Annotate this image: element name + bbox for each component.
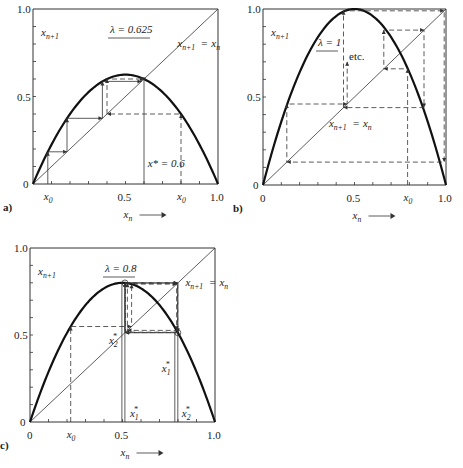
x-axis-arrow-icon xyxy=(159,450,164,456)
x-axis-label: xn xyxy=(120,446,130,461)
x2-star-label-mid: x2* xyxy=(108,332,118,349)
x-tick-label-05: 0.5 xyxy=(118,191,132,203)
diagonal-label-rhs-b: xn xyxy=(362,117,372,132)
x-tick-label-0: 0 xyxy=(27,429,33,441)
x-tick-label-1: 1.0 xyxy=(438,192,452,204)
y-axis-label: xn+1 xyxy=(40,26,59,41)
x0-label-c-0: x0 xyxy=(66,428,76,443)
diagonal-label-c: xn+1 xyxy=(184,276,203,291)
x-axis-label: xn xyxy=(123,208,133,223)
lambda-title: λ = 0.8 xyxy=(104,262,137,274)
x1-star-label-axis: x1* xyxy=(129,405,139,422)
y-tick-label-05: 0.5 xyxy=(14,329,28,341)
y-tick-label-05: 0.5 xyxy=(247,91,261,103)
logistic-curve xyxy=(30,283,215,422)
x-axis-arrow-icon xyxy=(391,213,396,219)
y-axis-label: xn+1 xyxy=(270,26,289,41)
plot-a: 1.00.500.51.0xn+1xna)λ = 0.625xn+1= xnx*… xyxy=(3,3,224,223)
x-tick-label-05: 0.5 xyxy=(115,429,129,441)
x2-star-label-axis: x2* xyxy=(181,405,191,422)
diagonal-line xyxy=(33,9,218,184)
y-tick-label-0: 0 xyxy=(23,178,29,190)
figure-logistic-map-cobwebs: 1.00.500.51.0xn+1xna)λ = 0.625xn+1= xnx*… xyxy=(0,0,463,468)
x-axis-arrow-icon xyxy=(162,212,167,218)
x-tick-label-1: 1.0 xyxy=(210,191,224,203)
y-tick-label-1: 1.0 xyxy=(14,242,28,254)
diagonal-label-eq: = xyxy=(201,37,207,49)
lambda-title: λ = 1 xyxy=(317,36,341,48)
plot-b: 1.00.5000.51.0xn+1xnb)λ = 1etc.xn+1= xnx… xyxy=(233,3,452,224)
x-tick-label-0: 0 xyxy=(260,192,266,204)
x-tick-label-1: 1.0 xyxy=(207,429,221,441)
x1-star-label-mid: x1* xyxy=(161,360,171,377)
diagonal-label-rhs: xn xyxy=(210,37,220,52)
x0-label-b-0: x0 xyxy=(403,191,413,206)
plot-c: 1.00.5000.51.0xn+1xnc)λ = 0.8x2*x1*x1*x2… xyxy=(0,242,228,461)
y-tick-label-1: 1.0 xyxy=(247,3,261,15)
diagonal-label-eq-b: = xyxy=(353,117,359,129)
diagonal-label-rhs-c: xn xyxy=(218,276,228,291)
y-tick-label-05: 0.5 xyxy=(17,91,31,103)
panel-label: a) xyxy=(3,201,13,214)
cobweb-solid xyxy=(48,78,145,184)
fixed-point-annotation: x* = 0.6 xyxy=(147,157,186,169)
diagonal-label-eq-c: = xyxy=(209,276,215,288)
lambda-title: λ = 0.625 xyxy=(109,23,153,35)
panel-label: c) xyxy=(0,439,9,452)
diagonal-line xyxy=(30,248,215,422)
etc-annotation: etc. xyxy=(349,50,365,62)
x0-label-1: x0 xyxy=(176,190,186,205)
panel-label: b) xyxy=(233,202,243,215)
x0-label-0: x0 xyxy=(43,190,53,205)
y-tick-label-0: 0 xyxy=(253,179,259,191)
y-tick-label-0: 0 xyxy=(20,416,26,428)
cobweb-arrowhead-icon xyxy=(345,62,349,66)
logistic-curve xyxy=(33,75,218,184)
y-tick-label-1: 1.0 xyxy=(17,3,31,15)
y-axis-label: xn+1 xyxy=(37,265,56,280)
x-axis-label: xn xyxy=(352,209,362,224)
x-tick-label-05: 0.5 xyxy=(347,192,361,204)
diagonal-label-b: xn+1 xyxy=(328,117,347,132)
cobweb-arrowhead-icon xyxy=(382,30,386,34)
